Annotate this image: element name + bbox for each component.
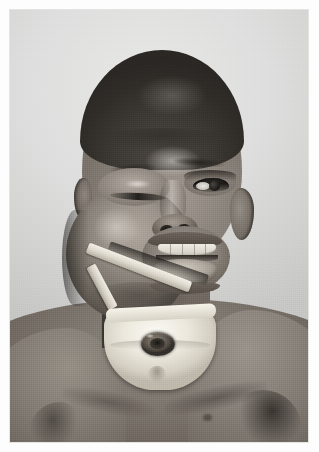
tracheostomy-lumen [150,338,165,349]
clinical-photograph [10,10,308,442]
eye-left-highlight [120,178,156,190]
nipple-right [203,414,212,421]
eye-right-pupil [209,181,220,191]
dressing-notch [146,366,168,392]
tracheostomy-highlight [144,333,156,339]
facial-mass-edge-shadow [62,210,88,306]
photo-page [0,0,319,452]
eye-right-sclera [196,182,210,190]
eyelid-right [184,170,236,181]
